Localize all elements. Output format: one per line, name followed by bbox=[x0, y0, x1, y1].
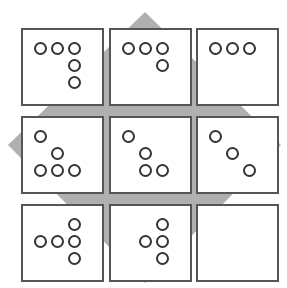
circle-icon bbox=[209, 130, 222, 143]
circle-icon bbox=[139, 235, 152, 248]
circle-icon bbox=[156, 164, 169, 177]
circle-icon bbox=[139, 42, 152, 55]
circle-icon bbox=[226, 147, 239, 160]
circle-icon bbox=[156, 252, 169, 265]
matrix-grid bbox=[0, 0, 287, 288]
circle-icon bbox=[139, 164, 152, 177]
matrix-cell-r1c2[interactable] bbox=[109, 28, 192, 106]
matrix-cell-r1c1[interactable] bbox=[21, 28, 104, 106]
circle-icon bbox=[68, 218, 81, 231]
matrix-cell-r3c3[interactable] bbox=[196, 204, 279, 282]
matrix-cell-r2c1[interactable] bbox=[21, 116, 104, 194]
matrix-cell-r2c3[interactable] bbox=[196, 116, 279, 194]
circle-icon bbox=[68, 164, 81, 177]
circle-icon bbox=[122, 130, 135, 143]
circle-icon bbox=[68, 76, 81, 89]
circle-icon bbox=[34, 235, 47, 248]
circle-icon bbox=[68, 252, 81, 265]
circle-icon bbox=[34, 164, 47, 177]
circle-icon bbox=[243, 164, 256, 177]
circle-icon bbox=[156, 218, 169, 231]
circle-icon bbox=[68, 42, 81, 55]
matrix-cell-r3c2[interactable] bbox=[109, 204, 192, 282]
circle-icon bbox=[209, 42, 222, 55]
circle-icon bbox=[34, 130, 47, 143]
circle-icon bbox=[139, 147, 152, 160]
circle-icon bbox=[51, 42, 64, 55]
circle-icon bbox=[68, 235, 81, 248]
circle-icon bbox=[68, 59, 81, 72]
circle-icon bbox=[226, 42, 239, 55]
matrix-puzzle-figure bbox=[0, 0, 287, 288]
circle-icon bbox=[122, 42, 135, 55]
circle-icon bbox=[156, 59, 169, 72]
circle-icon bbox=[156, 42, 169, 55]
circle-icon bbox=[51, 235, 64, 248]
circle-icon bbox=[243, 42, 256, 55]
circle-icon bbox=[51, 147, 64, 160]
matrix-cell-r3c1[interactable] bbox=[21, 204, 104, 282]
circle-icon bbox=[156, 235, 169, 248]
circle-icon bbox=[34, 42, 47, 55]
matrix-cell-r2c2[interactable] bbox=[109, 116, 192, 194]
matrix-cell-r1c3[interactable] bbox=[196, 28, 279, 106]
circle-icon bbox=[51, 164, 64, 177]
